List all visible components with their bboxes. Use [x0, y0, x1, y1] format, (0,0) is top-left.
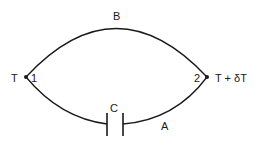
- label-c: C: [110, 102, 118, 114]
- label-a: A: [161, 120, 169, 132]
- thermocouple-diagram: B C A T 1 2 T + δT: [0, 0, 261, 155]
- label-junction-1: 1: [31, 72, 37, 84]
- junction-2-dot: [205, 75, 209, 79]
- junction-1-dot: [24, 75, 28, 79]
- wire-a-left: [26, 77, 107, 124]
- label-temp-right: T + δT: [215, 72, 247, 84]
- wire-a-right: [123, 77, 207, 124]
- label-junction-2: 2: [194, 72, 200, 84]
- wire-b: [26, 29, 207, 78]
- label-temp-left: T: [11, 72, 18, 84]
- label-b: B: [113, 10, 120, 22]
